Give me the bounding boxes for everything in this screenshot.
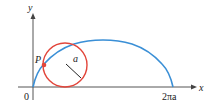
y-axis-label: y [27, 2, 33, 13]
radius-label: a [73, 53, 78, 64]
origin-label: 0 [24, 91, 29, 102]
radius-line [66, 64, 81, 78]
y-axis-arrow-icon [31, 13, 36, 19]
rolling-circle [43, 43, 87, 87]
x-axis-label: x [198, 82, 204, 93]
cycloid-curve [33, 40, 173, 87]
point-p-marker [42, 63, 47, 68]
point-p-label: P [34, 54, 41, 65]
cycloid-diagram: y x 0 2πa P a [0, 0, 213, 109]
x-axis [18, 85, 197, 90]
x-axis-arrow-icon [191, 85, 197, 90]
x-end-label: 2πa [162, 91, 177, 102]
